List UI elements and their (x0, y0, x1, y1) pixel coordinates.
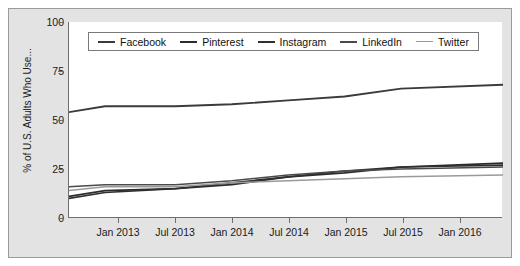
series-line-facebook (69, 85, 503, 112)
legend-entry-linkedin: LinkedIn (340, 36, 402, 48)
plot-area (68, 22, 502, 218)
legend-swatch-icon (340, 41, 357, 43)
legend-label: Facebook (120, 36, 166, 48)
series-lines (69, 22, 503, 218)
legend-swatch-icon (180, 41, 197, 43)
series-line-instagram (69, 165, 503, 198)
legend-entry-instagram: Instagram (258, 36, 327, 48)
legend-label: Instagram (280, 36, 327, 48)
legend-swatch-icon (98, 41, 115, 43)
chart-legend: FacebookPinterestInstagramLinkedInTwitte… (88, 32, 479, 51)
legend-swatch-icon (416, 41, 433, 42)
x-tick-mark (118, 218, 119, 223)
x-tick-mark (460, 218, 461, 223)
legend-swatch-icon (258, 41, 275, 43)
x-tick-mark (289, 218, 290, 223)
y-tick-mark (58, 22, 63, 23)
x-tick-label: Jan 2016 (425, 226, 495, 238)
x-tick-mark (232, 218, 233, 223)
legend-label: LinkedIn (362, 36, 402, 48)
y-tick-mark (58, 71, 63, 72)
y-tick-mark (58, 120, 63, 121)
legend-entry-pinterest: Pinterest (180, 36, 243, 48)
x-axis: Jan 2013Jul 2013Jan 2014Jul 2014Jan 2015… (0, 218, 520, 248)
chart-screenshot: % of U.S. Adults Who Use... 1007550250 J… (0, 0, 520, 266)
x-tick-mark (175, 218, 176, 223)
legend-entry-twitter: Twitter (416, 36, 469, 48)
x-tick-mark (403, 218, 404, 223)
legend-label: Twitter (438, 36, 469, 48)
legend-label: Pinterest (202, 36, 243, 48)
legend-entry-facebook: Facebook (98, 36, 166, 48)
y-tick-mark (58, 169, 63, 170)
x-tick-mark (346, 218, 347, 223)
